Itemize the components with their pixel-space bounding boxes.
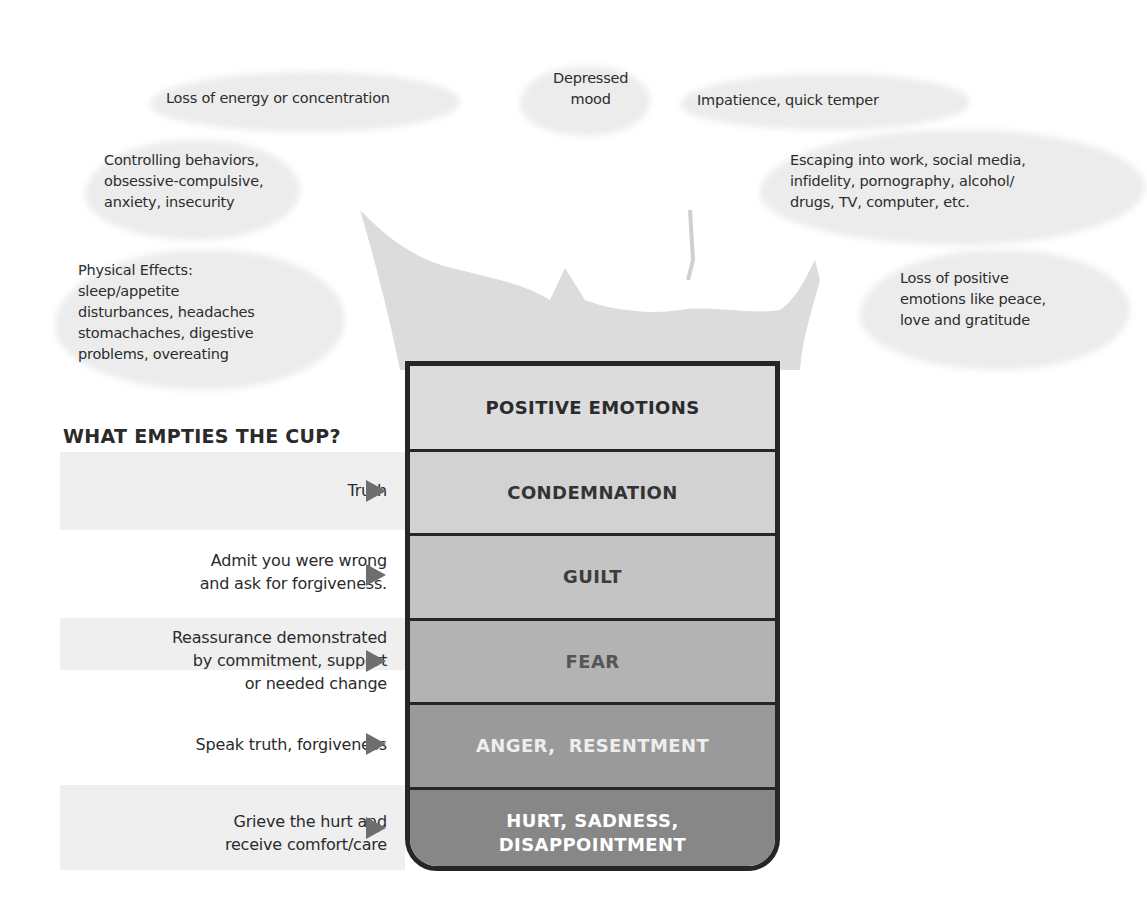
effect-escaping: Escaping into work, social media, infide… [790, 150, 1026, 213]
effect-loss-positive: Loss of positive emotions like peace, lo… [900, 268, 1046, 331]
effect-impatience: Impatience, quick temper [697, 90, 879, 111]
arrow-icon [366, 564, 386, 586]
effect-physical: Physical Effects: sleep/appetite disturb… [78, 260, 255, 365]
what-empties-heading: WHAT EMPTIES THE CUP? [63, 425, 341, 447]
layer-anger-resentment: ANGER, RESENTMENT [410, 705, 775, 790]
layer-guilt: GUILT [410, 536, 775, 621]
remedy-speak-truth: Speak truth, forgiveness [196, 733, 387, 756]
effect-controlling: Controlling behaviors, obsessive-compuls… [104, 150, 263, 213]
layer-condemnation: CONDEMNATION [410, 452, 775, 536]
remedy-reassurance: Reassurance demonstrated by commitment, … [172, 626, 387, 695]
effect-depressed-mood: Depressed mood [553, 68, 628, 110]
overflow-splash [350, 150, 840, 370]
arrow-icon [366, 480, 386, 502]
arrow-icon [366, 733, 386, 755]
emotion-cup: POSITIVE EMOTIONS CONDEMNATION GUILT FEA… [405, 361, 780, 871]
layer-fear: FEAR [410, 621, 775, 705]
remedy-grieve: Grieve the hurt and receive comfort/care [225, 810, 387, 856]
layer-hurt-sadness: HURT, SADNESS, DISAPPOINTMENT [410, 790, 775, 871]
arrow-icon [366, 650, 386, 672]
remedy-admit: Admit you were wrong and ask for forgive… [200, 549, 387, 595]
effect-energy: Loss of energy or concentration [166, 88, 390, 109]
arrow-icon [366, 817, 386, 839]
layer-positive-emotions: POSITIVE EMOTIONS [410, 366, 775, 452]
